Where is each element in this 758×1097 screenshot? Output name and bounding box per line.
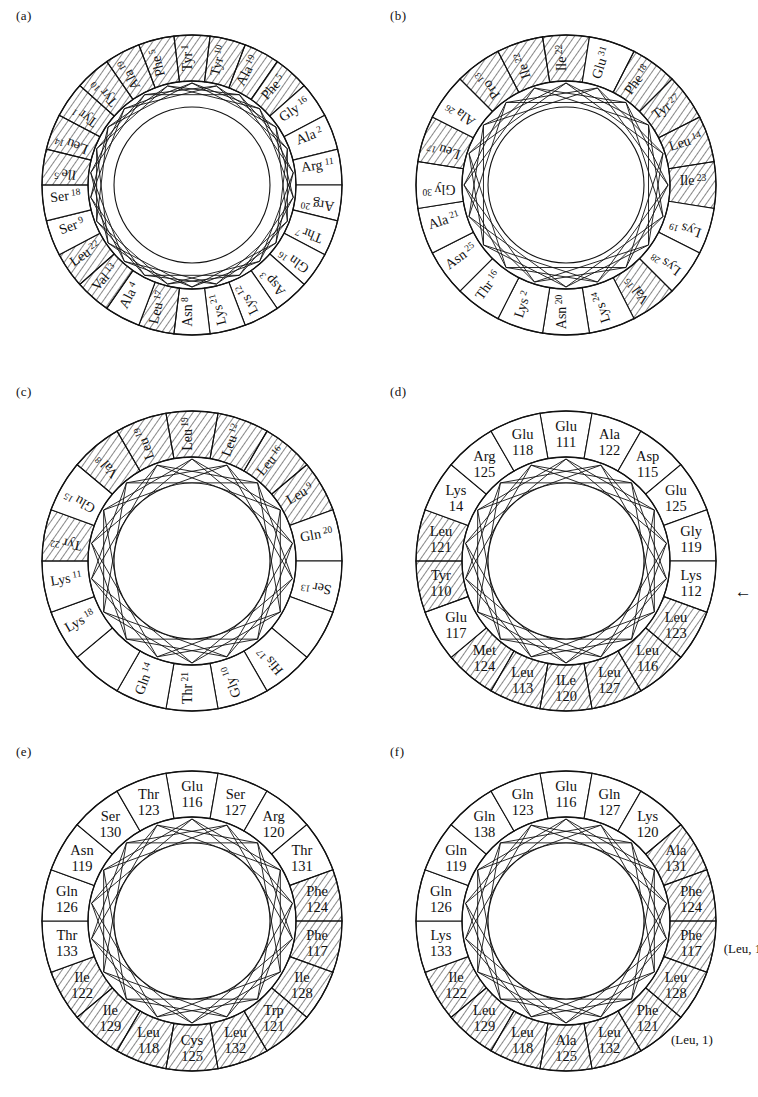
svg-text:122: 122 [71, 984, 93, 1000]
svg-text:130: 130 [99, 824, 121, 840]
residue-label: Cys125 [181, 1032, 204, 1064]
residue-label: Lys120 [637, 808, 659, 840]
svg-text:111: 111 [556, 434, 577, 450]
residue-label: Phe124 [306, 883, 329, 915]
svg-text:124: 124 [680, 899, 703, 915]
helical-wheel-b: Ile 22Glu 31Phe 18Tyr 27Leu 14Ile 23Lys … [406, 25, 726, 345]
svg-text:Leu: Leu [511, 664, 534, 680]
panel-f: (f) Glu116Gln127Lys120Ala131Phe124Phe117… [382, 740, 750, 1088]
svg-text:122: 122 [445, 984, 467, 1000]
residue-label: Arg120 [262, 808, 284, 840]
svg-text:132: 132 [225, 1040, 247, 1056]
svg-text:125: 125 [181, 1048, 203, 1064]
pointer-arrow: ← [735, 582, 752, 601]
svg-text:128: 128 [665, 984, 687, 1000]
svg-text:110: 110 [430, 583, 451, 599]
residue-label: Gly119 [680, 523, 703, 555]
svg-text:116: 116 [181, 794, 202, 810]
wheel-svg: Leu 19Leu 12Leu 16Leu 9Gln 20Ser 13His 1… [32, 401, 352, 721]
residue-annotation: (Leu, 1) [724, 941, 758, 956]
residue-label: Asp115 [636, 448, 659, 480]
svg-text:121: 121 [637, 1018, 659, 1034]
svg-text:Thr: Thr [56, 927, 77, 943]
svg-text:115: 115 [637, 464, 658, 480]
svg-text:124: 124 [306, 899, 329, 915]
svg-text:116: 116 [637, 658, 658, 674]
svg-text:121: 121 [263, 1018, 285, 1034]
svg-text:Glu: Glu [445, 608, 467, 624]
svg-text:127: 127 [225, 802, 247, 818]
svg-text:Ile: Ile [294, 968, 309, 984]
svg-text:119: 119 [680, 539, 701, 555]
svg-text:Glu: Glu [181, 778, 203, 794]
panel-a-label: (a) [16, 8, 32, 24]
svg-text:Ile: Ile [448, 968, 463, 984]
residue-label: Phe124 [680, 883, 703, 915]
svg-text:Thr: Thr [292, 841, 313, 857]
svg-text:120: 120 [263, 824, 285, 840]
svg-text:Leu: Leu [511, 1024, 534, 1040]
svg-text:120: 120 [637, 824, 659, 840]
svg-text:129: 129 [99, 1018, 121, 1034]
residue-label: Glu118 [512, 426, 534, 458]
svg-text:Lys: Lys [637, 808, 658, 824]
helical-wheel-f: Glu116Gln127Lys120Ala131Phe124Phe117(Leu… [406, 761, 726, 1081]
svg-text:Asn: Asn [70, 841, 94, 857]
residue-label: Leu118 [511, 1024, 534, 1056]
residue-label: Glu111 [555, 418, 577, 450]
wheel-svg: Glu111Ala122Asp115Glu125Gly119Lys112Leu1… [406, 401, 726, 721]
residue-label: Leu123 [665, 608, 688, 640]
svg-text:131: 131 [665, 857, 687, 873]
svg-text:125: 125 [473, 464, 495, 480]
helical-wheel-c: Leu 19Leu 12Leu 16Leu 9Gln 20Ser 13His 1… [32, 401, 352, 721]
svg-text:Lys: Lys [446, 481, 467, 497]
svg-text:Ile: Ile [74, 968, 89, 984]
svg-text:129: 129 [473, 1018, 495, 1034]
svg-text:133: 133 [430, 943, 452, 959]
residue-label: Leu128 [665, 968, 688, 1000]
svg-text:Met: Met [473, 642, 496, 658]
residue-label: Ile122 [445, 968, 467, 1000]
svg-text:126: 126 [56, 899, 78, 915]
svg-text:116: 116 [555, 794, 576, 810]
svg-text:Gly: Gly [680, 523, 703, 539]
svg-text:124: 124 [473, 658, 496, 674]
svg-text:Cys: Cys [181, 1032, 204, 1048]
svg-text:ILe: ILe [556, 672, 576, 688]
wheel-svg: Glu116Ser127Arg120Thr131Phe124Phe117Ile1… [32, 761, 352, 1081]
svg-text:122: 122 [599, 442, 621, 458]
residue-label: Gln138 [473, 808, 496, 840]
helical-wheel-d: Glu111Ala122Asp115Glu125Gly119Lys112Leu1… [406, 401, 726, 721]
residue-label: Ser130 [99, 808, 121, 840]
svg-text:14: 14 [449, 497, 464, 513]
svg-text:Leu: Leu [665, 968, 688, 984]
residue-label: Leu116 [636, 642, 659, 674]
svg-text:Thr: Thr [138, 786, 159, 802]
svg-text:Ala: Ala [599, 426, 621, 442]
residue-label: Thr123 [138, 786, 160, 818]
svg-text:Glu: Glu [512, 426, 534, 442]
residue-annotation: (Leu, 1) [671, 1032, 713, 1047]
residue-label: Asn119 [70, 841, 94, 873]
svg-text:Ala: Ala [666, 841, 688, 857]
residue-label: Ala125 [555, 1032, 577, 1064]
svg-text:Arg: Arg [262, 808, 284, 824]
svg-text:Glu: Glu [555, 778, 577, 794]
panel-f-label: (f) [390, 744, 405, 760]
panel-a: (a) Tyr 1Tyr 10Ala 19Phe 5Gly 16Ala 2Arg… [8, 4, 376, 352]
svg-text:131: 131 [291, 857, 313, 873]
residue-label: ILe120 [555, 672, 577, 704]
svg-text:119: 119 [71, 857, 92, 873]
residue-label: Leu132 [598, 1024, 621, 1056]
panel-c-label: (c) [16, 384, 32, 400]
residue-label: Ile128 [291, 968, 313, 1000]
residue-label: Ile122 [71, 968, 93, 1000]
residue-label: Trp121 [263, 1002, 285, 1034]
svg-text:Phe: Phe [680, 883, 702, 899]
svg-text:Lys: Lys [681, 567, 702, 583]
svg-text:Glu: Glu [665, 481, 687, 497]
helical-wheel-e: Glu116Ser127Arg120Thr131Phe124Phe117Ile1… [32, 761, 352, 1081]
svg-text:Leu: Leu [473, 1002, 496, 1018]
residue-label: Gln126 [430, 883, 453, 915]
residue-label: Leu132 [224, 1024, 247, 1056]
